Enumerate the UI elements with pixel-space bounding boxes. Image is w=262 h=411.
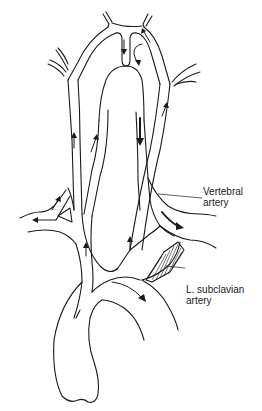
arrow-curved-icon bbox=[134, 44, 142, 66]
right-external-carotid-branches bbox=[48, 48, 68, 76]
right-subclavian bbox=[20, 188, 76, 244]
innominate-artery bbox=[74, 216, 93, 318]
right-vertebral bbox=[84, 110, 108, 216]
vertebral-label-line1: Vertebral bbox=[203, 186, 243, 197]
left-external-carotid-branches bbox=[172, 64, 200, 86]
arrow-right-bold-icon bbox=[162, 212, 184, 230]
left-carotid bbox=[130, 84, 170, 250]
vertebral-label-line2: artery bbox=[203, 197, 243, 208]
subclavian-label-line1: L. subclavian bbox=[186, 284, 244, 295]
flow-arrows bbox=[32, 28, 184, 302]
vertebral-leader-line bbox=[158, 194, 202, 198]
subclavian-label-line2: artery bbox=[186, 295, 244, 306]
arrow-left-icon bbox=[32, 217, 56, 223]
arrow-down-right-icon bbox=[112, 282, 146, 302]
subclavian-artery-label: L. subclavian artery bbox=[186, 284, 244, 306]
subclavian-leader-line bbox=[166, 266, 185, 268]
circle-of-willis bbox=[68, 12, 170, 120]
arrow-up-icon bbox=[52, 196, 61, 210]
aortic-arch bbox=[54, 277, 178, 402]
vertebral-artery-label: Vertebral artery bbox=[203, 186, 243, 208]
central-vessel-loop bbox=[82, 214, 130, 272]
